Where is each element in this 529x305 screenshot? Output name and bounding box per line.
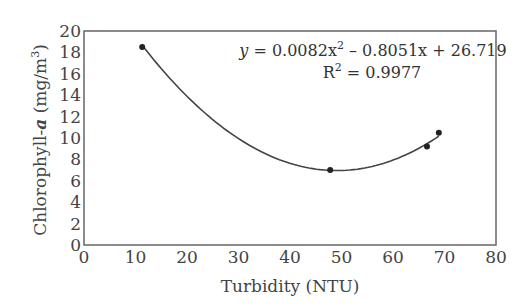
x-tick-label: 60 [382,247,404,267]
data-point [327,167,333,173]
y-axis-label: Chlorophyll-a (mg/m3) [29,44,50,236]
y-tick-label: 8 [70,149,81,169]
x-tick-label: 20 [176,247,198,267]
x-axis-label: Turbidity (NTU) [221,276,360,296]
y-tick-label: 6 [70,171,81,191]
equation-annotation: y = 0.0082x2 – 0.8051x + 26.719 [238,39,506,60]
y-tick-label: 14 [59,85,81,105]
x-tick-label: 40 [279,247,301,267]
y-tick-label: 20 [59,21,81,41]
y-tick-label: 10 [59,128,81,148]
y-tick-label: 16 [59,64,81,84]
data-point [424,144,430,150]
y-tick-label: 12 [59,107,81,127]
y-tick-label: 2 [70,214,81,234]
y-tick-label: 4 [70,192,81,212]
data-point [139,44,145,50]
plot-area [84,31,496,245]
x-axis-ticks: 01020304050607080 [79,247,507,267]
x-tick-label: 0 [79,247,90,267]
data-point [436,130,442,136]
x-tick-label: 10 [125,247,147,267]
chart: 02468101214161820 01020304050607080 y = … [0,0,529,305]
x-tick-label: 70 [434,247,456,267]
y-axis-ticks: 02468101214161820 [59,21,81,255]
x-tick-label: 30 [228,247,250,267]
y-tick-label: 18 [59,42,81,62]
x-tick-label: 50 [331,247,353,267]
x-tick-label: 80 [485,247,507,267]
